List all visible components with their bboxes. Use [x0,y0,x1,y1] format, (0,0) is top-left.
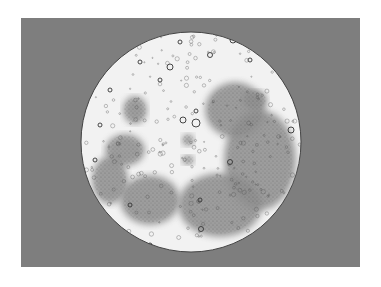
moon-illustration [0,0,381,287]
crater [118,228,122,232]
moon-disc [81,32,301,252]
